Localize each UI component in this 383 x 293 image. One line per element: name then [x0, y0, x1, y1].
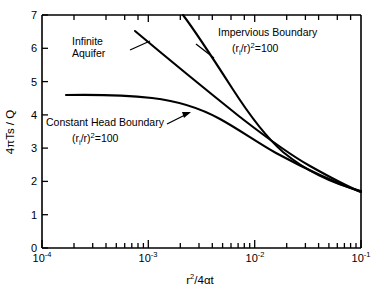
annotation-constant-head-boundary: Constant Head Boundary (ri/r)2=100: [46, 116, 165, 147]
y-axis-ticks: [42, 15, 48, 248]
annotation-infinite-aquifer-line1: Infinite: [72, 35, 103, 47]
leader-infinite-aquifer: [130, 41, 150, 50]
y-title-pi: π: [4, 140, 16, 148]
svg-text:r2/4αt: r2/4αt: [186, 272, 214, 286]
y-axis-title: 4πTs / Q: [4, 110, 16, 154]
ratio-equals: =100: [95, 132, 119, 144]
y-tick-label: 7: [31, 9, 37, 21]
x-tick-label: 10-1: [352, 250, 371, 264]
y-tick-label: 6: [31, 42, 37, 54]
x-tick-exponent: -1: [364, 250, 371, 259]
y-tick-label: 4: [31, 109, 37, 121]
y-tick-label: 1: [31, 209, 37, 221]
annotation-infinite-aquifer: Infinite Aquifer: [72, 35, 106, 59]
x-tick-exponent: -2: [258, 250, 265, 259]
y-tick-label: 2: [31, 175, 37, 187]
arrowhead-constant-head: [182, 112, 191, 118]
svg-text:10-4: 10-4: [33, 250, 52, 264]
annotation-infinite-aquifer-line2: Aquifer: [72, 47, 106, 59]
svg-text:10-2: 10-2: [246, 250, 265, 264]
x-tick-label: 10-3: [139, 250, 158, 264]
x-tick-exponent: -4: [45, 250, 52, 259]
y-title-rest: Ts / Q: [4, 110, 16, 140]
x-tick-mantissa: 10: [352, 252, 364, 264]
annotation-impervious-boundary: Impervious Boundary (ri/r)2=100: [218, 26, 318, 57]
y-tick-labels: 7 6 5 4 3 2 1 0: [31, 9, 37, 254]
x-tick-label: 10-4: [33, 250, 52, 264]
ratio-slash: /r): [81, 132, 91, 144]
x-tick-labels: 10-4 10-3 10-2 10-1: [33, 250, 371, 264]
x-title-t: t: [211, 274, 215, 286]
x-tick-mantissa: 10: [33, 252, 45, 264]
figure-container: 7 6 5 4 3 2 1 0 10-4 10-3 10-2: [0, 0, 383, 293]
x-tick-mantissa: 10: [139, 252, 151, 264]
x-tick-label: 10-2: [246, 250, 265, 264]
ratio-equals: =100: [255, 42, 279, 54]
x-axis-title: r2/4αt: [186, 272, 214, 286]
annotation-constant-head-title: Constant Head Boundary: [46, 116, 165, 128]
x-axis-ticks: [42, 240, 361, 248]
top-axis-ticks: [74, 15, 351, 22]
y-tick-label: 5: [31, 76, 37, 88]
svg-text:4πTs / Q: 4πTs / Q: [4, 110, 16, 154]
chart-svg: 7 6 5 4 3 2 1 0 10-4 10-3 10-2: [0, 0, 383, 293]
svg-text:10-3: 10-3: [139, 250, 158, 264]
x-tick-mantissa: 10: [246, 252, 258, 264]
svg-text:10-1: 10-1: [352, 250, 371, 264]
annotation-impervious-boundary-title: Impervious Boundary: [218, 26, 318, 38]
annotation-impervious-boundary-ratio: (ri/r)2=100: [232, 41, 279, 57]
ratio-slash: /r): [241, 42, 251, 54]
annotation-constant-head-ratio: (ri/r)2=100: [72, 131, 119, 147]
x-tick-exponent: -3: [151, 250, 158, 259]
y-tick-label: 3: [31, 142, 37, 154]
